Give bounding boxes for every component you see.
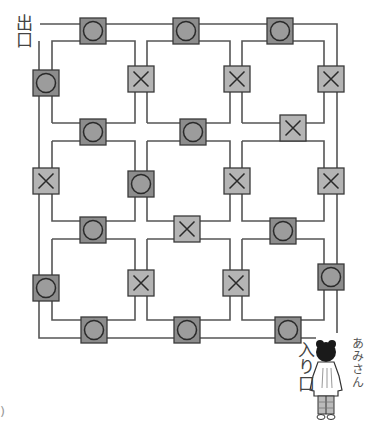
circle-icon [279,321,298,340]
maze-diagram [0,0,374,425]
outer-boundary-top-right [40,24,337,333]
cross-tile [174,216,200,242]
entrance-label: 入り口 [296,341,313,392]
cross-tile [280,115,306,141]
circle-tile [270,218,296,244]
circle-tile [180,119,206,145]
circle-icon [37,279,56,298]
circle-icon [178,321,197,340]
cross-tile [223,270,249,296]
circle-tile [128,171,154,197]
circle-icon [322,268,341,287]
circle-tile [275,317,301,343]
character-head [316,340,336,362]
exit-label: 出口 [14,14,31,48]
circle-tile [80,18,106,44]
block-r2c1 [52,141,135,221]
circle-icon [84,22,103,41]
circle-tile [318,264,344,290]
cross-tile [318,66,344,92]
circle-icon [271,22,290,41]
circle-tile [33,70,59,96]
character-name-label: あみさん [350,337,362,389]
circle-tile [80,217,106,243]
circle-icon [84,221,103,240]
circle-tile [267,18,293,44]
block-r3c3 [242,239,324,320]
circle-tile [80,119,106,145]
cross-tile [128,270,154,296]
circle-icon [177,22,196,41]
block-r1c3 [242,41,324,123]
circle-tile [81,317,107,343]
circle-tile [173,18,199,44]
circle-icon [84,123,103,142]
circle-tile [33,275,59,301]
block-r1c2 [147,41,230,123]
cross-tile [33,168,59,194]
circle-icon [85,321,104,340]
circle-tile [174,317,200,343]
cross-tile [128,66,154,92]
block-r2c3 [242,141,324,221]
block-r2c2 [147,141,230,221]
circle-icon [184,123,203,142]
block-r3c1 [52,239,135,320]
circle-icon [274,222,293,241]
maze-road-lines [39,24,337,338]
outer-boundary-left-bottom [39,41,316,338]
block-r1c1 [52,41,135,123]
cross-tile [224,66,250,92]
cross-tile [318,168,344,194]
circle-icon [37,74,56,93]
corner-mark: ) [0,404,5,419]
maze-tiles [33,18,344,343]
circle-icon [132,175,151,194]
cross-tile [224,168,250,194]
block-r3c2 [147,239,230,320]
